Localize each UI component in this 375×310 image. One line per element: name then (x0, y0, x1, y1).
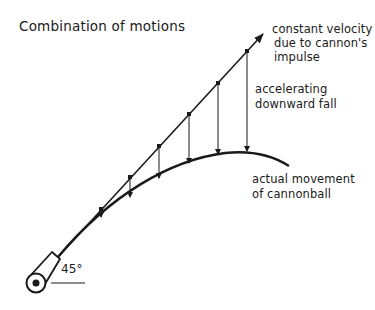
label-actual-movement-1: actual movement (252, 172, 355, 186)
angle-label: 45° (61, 262, 83, 276)
trajectory-curve (58, 152, 289, 257)
cannon-icon (27, 252, 61, 293)
label-actual-movement-2: of cannonball (252, 187, 331, 201)
label-constant-velocity-1: constant velocity (272, 22, 372, 36)
label-downward-fall-1: accelerating (255, 82, 327, 96)
label-constant-velocity-2: due to cannon's (274, 36, 367, 50)
label-constant-velocity-3: impulse (274, 50, 320, 64)
label-downward-fall-2: downward fall (255, 97, 337, 111)
